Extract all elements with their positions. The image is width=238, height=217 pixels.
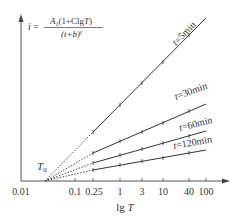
x-axis-arrow-icon — [222, 179, 230, 184]
svg-text:0.1: 0.1 — [69, 186, 82, 197]
extrapolation-lines — [45, 132, 93, 181]
formula: i = A1(1+ClgT) (t+b)c — [28, 16, 103, 39]
chart: t=5min t=30min t=60min t=120min T0 0.01 … — [0, 0, 238, 217]
label-t60: t=60min — [178, 114, 214, 133]
svg-text:10: 10 — [158, 186, 168, 197]
svg-text:(t+b)c: (t+b)c — [61, 29, 83, 39]
svg-text:1: 1 — [118, 186, 123, 197]
svg-text:40: 40 — [184, 186, 194, 197]
data-points — [93, 33, 189, 172]
svg-text:3: 3 — [140, 186, 145, 197]
svg-text:0.25: 0.25 — [85, 186, 103, 197]
label-t30: t=30min — [173, 80, 209, 102]
label-t120: t=120min — [172, 133, 212, 151]
svg-text:0.01: 0.01 — [12, 186, 30, 197]
label-T0: T0 — [37, 160, 47, 174]
y-axis-arrow-icon — [19, 14, 24, 22]
svg-text:100: 100 — [199, 186, 214, 197]
x-tick-labels: 0.01 0.1 0.25 1 3 10 40 100 — [12, 186, 213, 197]
x-axis-label: lg T — [116, 201, 134, 213]
label-t5: t=5min — [170, 19, 198, 47]
svg-text:A1(1+ClgT): A1(1+ClgT) — [49, 16, 92, 27]
svg-text:i =: i = — [28, 21, 39, 32]
